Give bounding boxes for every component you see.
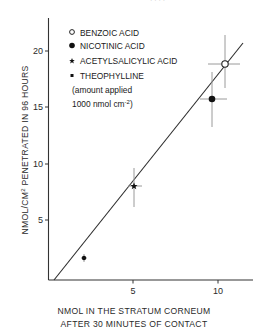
y-axis-title: NMOL/CM2 PENETRATED IN 96 HOURS bbox=[20, 65, 30, 234]
x-tick-label: 10 bbox=[213, 286, 223, 296]
x-axis-title-line1: NMOL IN THE STRATUM CORNEUM bbox=[57, 306, 210, 316]
filled-circle-icon bbox=[69, 43, 75, 49]
y-tick-label: 15 bbox=[33, 102, 43, 112]
chart: · · · · 20 15 10 5 5 10 NMOL/CM2 PENETRA… bbox=[0, 0, 266, 334]
legend-label: NICOTINIC ACID bbox=[80, 41, 145, 51]
star-icon bbox=[69, 58, 75, 63]
legend-label: THEOPHYLLINE bbox=[80, 71, 144, 81]
y-ticks: 20 15 10 5 bbox=[33, 46, 49, 225]
legend-label: ACETYLSALICYLIC ACID bbox=[80, 56, 177, 66]
x-axis-title-line2: AFTER 30 MINUTES OF CONTACT bbox=[61, 319, 208, 329]
cropped-header-fragment: · · · · bbox=[150, 0, 165, 4]
legend: BENZOIC ACID NICOTINIC ACID ACETYLSALICY… bbox=[69, 28, 177, 110]
filled-square-icon bbox=[71, 74, 74, 77]
data-point-nicotinic-acid bbox=[209, 96, 216, 103]
y-tick-label: 20 bbox=[33, 46, 43, 56]
x-tick-label: 5 bbox=[130, 286, 135, 296]
data-point-benzoic-acid bbox=[222, 61, 228, 67]
legend-label: BENZOIC ACID bbox=[80, 28, 139, 38]
x-ticks: 5 10 bbox=[130, 280, 223, 296]
y-tick-label: 10 bbox=[33, 159, 43, 169]
data-point-theophylline bbox=[82, 256, 86, 260]
y-tick-label: 5 bbox=[38, 215, 43, 225]
error-bars bbox=[81, 35, 240, 262]
annotation-line1: (amount applied bbox=[72, 85, 132, 95]
open-circle-icon bbox=[70, 30, 75, 35]
annotation-line2: 1000 nmol cm-2) bbox=[72, 99, 133, 109]
